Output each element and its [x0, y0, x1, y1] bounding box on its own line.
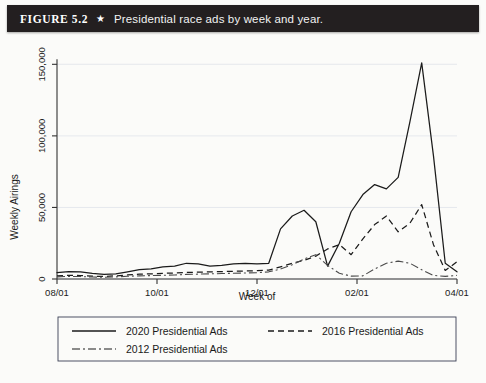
- data-series-layer: [57, 63, 457, 277]
- gridlines: [57, 64, 457, 279]
- y-axis-ticks: 050,000100,000150,000: [36, 47, 57, 282]
- x-tick-label: 10/01: [145, 287, 169, 298]
- figure-caption: Presidential race ads by week and year.: [114, 13, 323, 25]
- figure-title-bar: FIGURE 5.2 ★ Presidential race ads by we…: [7, 5, 479, 32]
- legend-box: [58, 317, 456, 361]
- star-icon: ★: [96, 13, 105, 24]
- figure-container: FIGURE 5.2 ★ Presidential race ads by we…: [0, 0, 486, 383]
- legend-label-2016: 2016 Presidential Ads: [322, 325, 424, 337]
- x-tick-label: 08/01: [45, 287, 69, 298]
- figure-number: FIGURE 5.2: [20, 13, 88, 25]
- axes: [57, 59, 457, 279]
- x-axis-title: Week of: [239, 291, 276, 302]
- x-tick-label: 04/01: [445, 287, 469, 298]
- chart-area: 050,000100,000150,000 08/0110/0112/0102/…: [0, 32, 486, 383]
- y-axis-title: Weekly Airings: [9, 174, 20, 239]
- legend-label-2012: 2012 Presidential Ads: [126, 343, 228, 355]
- y-tick-label: 150,000: [36, 47, 47, 81]
- series-line-2020: [57, 63, 457, 275]
- y-tick-label: 100,000: [36, 119, 47, 153]
- series-line-2016: [57, 205, 457, 277]
- line-chart: 050,000100,000150,000 08/0110/0112/0102/…: [0, 32, 486, 383]
- legend-label-2020: 2020 Presidential Ads: [126, 325, 228, 337]
- chart-legend: 2020 Presidential Ads2016 Presidential A…: [58, 317, 456, 361]
- y-tick-label: 0: [36, 276, 47, 281]
- y-tick-label: 50,000: [36, 193, 47, 222]
- x-tick-label: 02/01: [345, 287, 369, 298]
